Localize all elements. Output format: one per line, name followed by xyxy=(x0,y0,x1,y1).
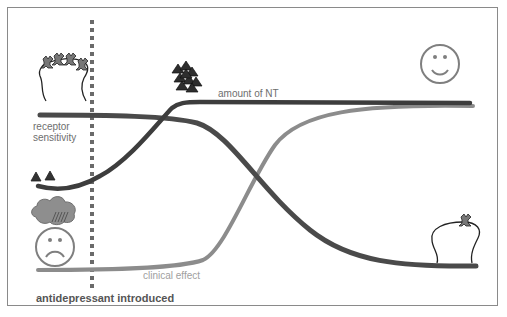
neurotransmitter-cluster-icon xyxy=(172,61,202,92)
rain-cloud-icon xyxy=(32,197,76,225)
receptor-sensitivity-label-line2: sensitivity xyxy=(33,132,76,143)
nt-amount-label: amount of NT xyxy=(218,88,279,99)
single-receptor-icon xyxy=(432,214,480,263)
receptor-sensitivity-curve xyxy=(40,115,476,266)
happy-face-icon xyxy=(421,45,459,83)
clinical-effect-curve xyxy=(38,106,473,270)
sad-face-icon xyxy=(36,228,74,266)
receptor-sensitivity-label-line1: receptor xyxy=(33,121,70,132)
neurotransmitter-pair-icon xyxy=(31,171,55,181)
antidepressant-introduced-label: antidepressant introduced xyxy=(36,293,174,304)
clinical-effect-label: clinical effect xyxy=(143,270,200,281)
diagram-canvas xyxy=(0,0,507,317)
receptor-cluster-icon xyxy=(39,53,88,101)
